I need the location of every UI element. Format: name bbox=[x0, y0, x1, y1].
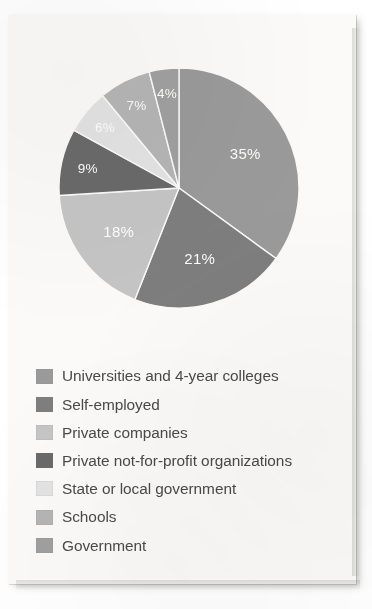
legend-label-government: Government bbox=[62, 538, 146, 553]
pie-data-label: 9% bbox=[78, 161, 98, 176]
page-root: 35%21%18%9%6%7%4% Universities and 4-yea… bbox=[0, 0, 372, 609]
pie-chart-graphic: 35%21%18%9%6%7%4% bbox=[56, 28, 302, 340]
legend-swatch-schools bbox=[36, 510, 53, 525]
legend-label-self-employed: Self-employed bbox=[62, 397, 160, 412]
legend-label-schools: Schools bbox=[62, 509, 116, 524]
legend-item-schools[interactable]: Schools bbox=[36, 503, 336, 531]
legend-item-universities-and-4-year-colleges[interactable]: Universities and 4-year colleges bbox=[36, 362, 336, 390]
legend-item-self-employed[interactable]: Self-employed bbox=[36, 390, 336, 418]
pie-data-label: 35% bbox=[230, 145, 261, 162]
legend-swatch-private-companies bbox=[36, 425, 53, 440]
pie-data-label: 18% bbox=[103, 223, 134, 240]
legend-item-state-or-local-government[interactable]: State or local government bbox=[36, 475, 336, 503]
legend-label-universities-and-4-year-colleges: Universities and 4-year colleges bbox=[62, 368, 279, 383]
pie-data-label: 21% bbox=[184, 250, 215, 267]
legend-swatch-universities-and-4-year-colleges bbox=[36, 369, 53, 384]
pie-chart-figure: 35%21%18%9%6%7%4% bbox=[20, 22, 338, 344]
legend-label-private-companies: Private companies bbox=[62, 425, 188, 440]
legend-item-private-not-for-profit-organizations[interactable]: Private not-for-profit organizations bbox=[36, 447, 336, 475]
pie-data-label: 7% bbox=[126, 98, 146, 113]
chart-legend: Universities and 4-year colleges Self-em… bbox=[36, 362, 336, 559]
legend-label-private-not-for-profit-organizations: Private not-for-profit organizations bbox=[62, 453, 292, 468]
legend-item-private-companies[interactable]: Private companies bbox=[36, 418, 336, 446]
legend-swatch-state-or-local-government bbox=[36, 481, 53, 496]
legend-swatch-government bbox=[36, 538, 53, 553]
legend-swatch-self-employed bbox=[36, 397, 53, 412]
pie-data-label: 4% bbox=[157, 86, 177, 101]
legend-swatch-private-not-for-profit-organizations bbox=[36, 453, 53, 468]
legend-label-state-or-local-government: State or local government bbox=[62, 481, 236, 496]
legend-item-government[interactable]: Government bbox=[36, 531, 336, 559]
pie-data-label: 6% bbox=[95, 120, 115, 135]
pie-slice-group bbox=[59, 68, 299, 308]
pie-svg: 35%21%18%9%6%7%4% bbox=[56, 28, 302, 340]
